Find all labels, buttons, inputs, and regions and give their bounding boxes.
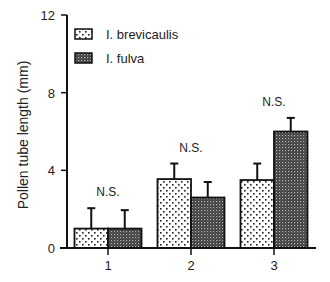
legend-label: I. fulva [106,51,145,66]
y-axis: 04812 [41,8,67,256]
significance-label: N.S. [179,141,202,155]
legend-swatch-checker [75,53,92,63]
legend-label: I. brevicaulis [106,27,179,42]
y-axis-title: Pollen tube length (mm) [15,61,31,210]
chart-canvas: Pollen tube length (mm) 04812 123 N.S.N.… [0,0,330,282]
significance-label: N.S. [262,95,285,109]
legend: I. brevicaulis I. fulva [75,27,179,66]
x-tick-label: 3 [270,258,277,273]
bar-brevicaulis [241,180,275,248]
bar-brevicaulis [75,229,109,248]
legend-swatch-dots [75,29,92,39]
significance-label: N.S. [96,185,119,199]
bar-fulva [108,229,142,248]
y-tick-label: 8 [48,86,55,101]
bar-brevicaulis [158,179,192,248]
legend-item-fulva: I. fulva [75,51,145,66]
x-tick-label: 2 [187,258,194,273]
legend-item-brevicaulis: I. brevicaulis [75,27,179,42]
y-tick-label: 12 [41,8,55,23]
x-tick-label: 1 [104,258,111,273]
bar-fulva [191,198,225,248]
y-tick-label: 0 [48,241,55,256]
y-tick-label: 4 [48,163,55,178]
bars-layer [75,118,308,248]
bar-chart: Pollen tube length (mm) 04812 123 N.S.N.… [0,0,330,282]
bar-fulva [274,132,308,249]
x-axis: 123 [60,248,316,273]
